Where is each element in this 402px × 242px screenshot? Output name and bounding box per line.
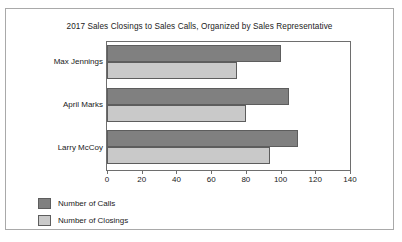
legend-swatch-closings	[38, 215, 51, 226]
x-tick-mark	[315, 170, 316, 174]
category-axis-labels: Max JenningsApril MarksLarry McCoy	[6, 41, 103, 169]
x-tick-mark	[281, 170, 282, 174]
legend-label: Number of Calls	[58, 199, 115, 208]
x-tick-mark	[211, 170, 212, 174]
x-tick-mark	[176, 170, 177, 174]
x-tick-label: 20	[137, 175, 146, 184]
bar-group	[107, 42, 350, 85]
bar-closings	[107, 62, 237, 79]
bar-calls	[107, 88, 289, 105]
legend-item: Number of Closings	[38, 212, 128, 229]
x-tick-mark	[107, 170, 108, 174]
x-tick-label: 80	[241, 175, 250, 184]
x-tick-mark	[246, 170, 247, 174]
category-label: Larry McCoy	[7, 143, 103, 152]
bar-calls	[107, 130, 298, 147]
legend-swatch-calls	[38, 198, 51, 209]
chart-title: 2017 Sales Closings to Sales Calls, Orga…	[6, 22, 393, 31]
chart-legend: Number of CallsNumber of Closings	[38, 195, 128, 229]
legend-item: Number of Calls	[38, 195, 128, 212]
legend-label: Number of Closings	[58, 216, 128, 225]
x-tick-label: 140	[343, 175, 356, 184]
bar-calls	[107, 45, 281, 62]
bar-closings	[107, 105, 246, 122]
chart-page: 2017 Sales Closings to Sales Calls, Orga…	[5, 8, 394, 230]
x-tick-label: 0	[105, 175, 109, 184]
x-tick-label: 100	[274, 175, 287, 184]
x-tick-label: 120	[309, 175, 322, 184]
category-label: Max Jennings	[7, 57, 103, 66]
x-tick-mark	[350, 170, 351, 174]
bar-group	[107, 85, 350, 128]
bar-group	[107, 127, 350, 170]
plot-area	[106, 41, 351, 171]
bar-closings	[107, 147, 270, 164]
x-axis: 020406080100120140	[106, 170, 351, 190]
x-tick-mark	[142, 170, 143, 174]
category-label: April Marks	[7, 100, 103, 109]
x-tick-label: 60	[207, 175, 216, 184]
x-tick-label: 40	[172, 175, 181, 184]
